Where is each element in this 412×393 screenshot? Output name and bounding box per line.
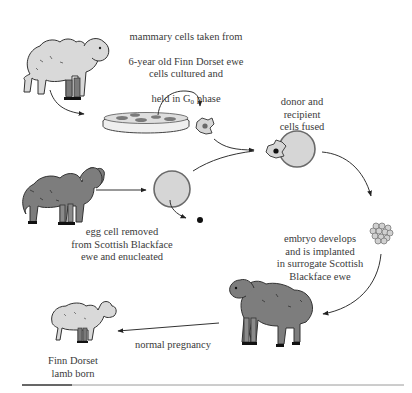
label-egg-cell-removed: egg cell removed from Scottish Blackface… (62, 226, 182, 264)
label-cultured-line1: cells cultured and (149, 68, 223, 79)
fused-cell-icon (266, 131, 315, 167)
removed-nucleus-icon (197, 217, 203, 223)
cloning-diagram: mammary cells taken from 6-year old Finn… (0, 0, 412, 393)
arrow-egg-to-fused (193, 151, 254, 171)
arrow-surrogate-to-lamb (118, 323, 219, 331)
label-embryo-develops: embryo develops and is implanted in surr… (258, 233, 382, 283)
label-cultured-line2-suffix: phase (194, 93, 221, 104)
arrow-donor-to-fused (214, 139, 254, 150)
donor-cell-icon (196, 118, 214, 134)
blackface-ewe-icon (23, 168, 105, 225)
label-cells-cultured: cells cultured and held in G0 phase (116, 55, 256, 105)
label-lamb-born: Finn Dorset lamb born (38, 355, 108, 380)
egg-cell-icon (154, 171, 190, 207)
label-cells-fused: donor and recipient cells fused (262, 96, 342, 134)
lamb-icon (52, 302, 117, 344)
label-normal-pregnancy: normal pregnancy (128, 339, 218, 352)
surrogate-ewe-icon (230, 279, 313, 347)
label-cultured-line2-prefix: held in G (151, 93, 190, 104)
petri-dish-icon (103, 113, 189, 134)
arrow-fused-to-embryo (322, 152, 371, 196)
label-mammary-line1: mammary cells taken from (130, 31, 243, 42)
